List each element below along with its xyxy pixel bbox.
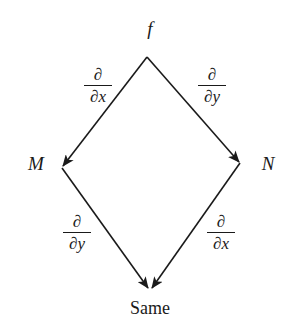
fraction-denominator: ∂y xyxy=(69,233,85,252)
node-m-label: M xyxy=(28,154,44,173)
fraction-numerator: ∂ xyxy=(206,66,218,85)
fraction-denominator: ∂x xyxy=(213,233,229,252)
diagram-canvas xyxy=(0,0,294,329)
node-same-label: Same xyxy=(130,299,170,317)
edge-label-d-dy-upper-right: ∂ ∂y xyxy=(198,66,226,105)
node-n-label: N xyxy=(262,154,275,173)
fraction-denominator: ∂y xyxy=(204,86,220,105)
fraction-numerator: ∂ xyxy=(71,213,83,232)
fraction-numerator: ∂ xyxy=(215,213,227,232)
edge-label-d-dy-lower-left: ∂ ∂y xyxy=(63,213,91,252)
fraction-denominator: ∂x xyxy=(90,86,106,105)
edge-label-d-dx-lower-right: ∂ ∂x xyxy=(207,213,235,252)
edge-label-d-dx-upper-left: ∂ ∂x xyxy=(84,66,112,105)
node-f-label: f xyxy=(147,19,152,38)
fraction-numerator: ∂ xyxy=(92,66,104,85)
